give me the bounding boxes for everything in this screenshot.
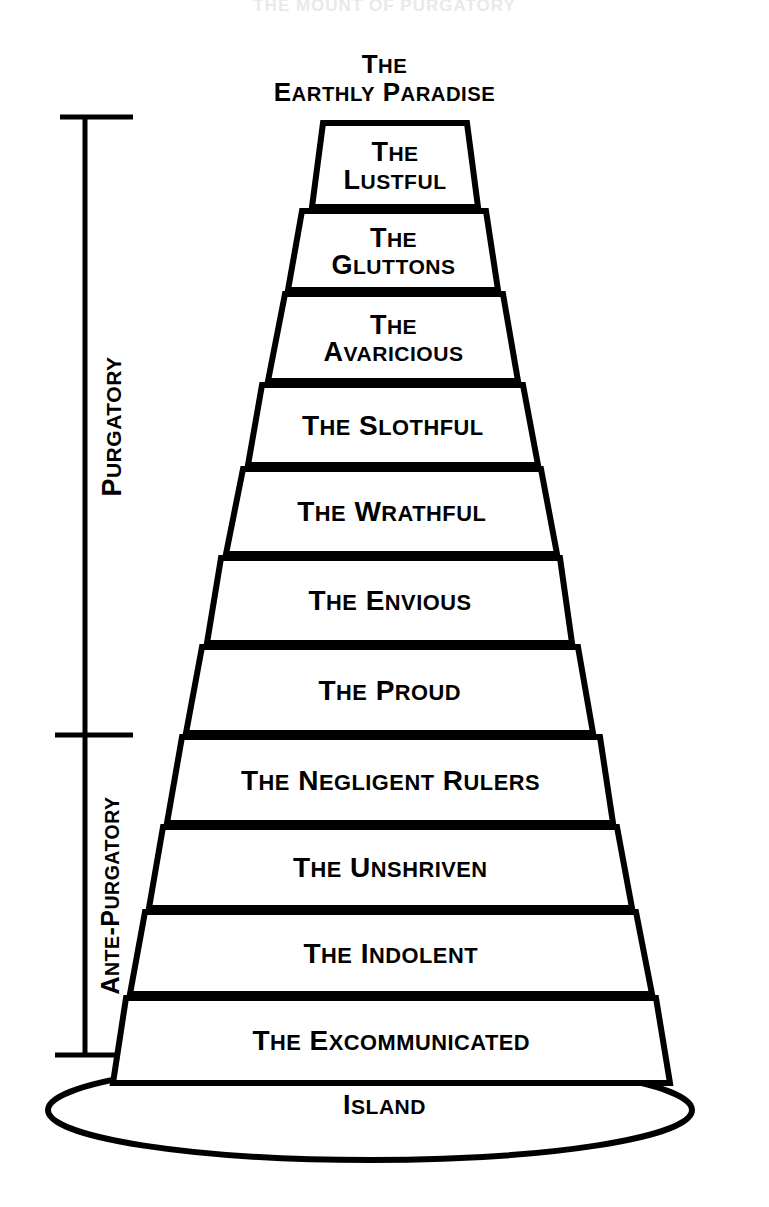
apex-label-earthly-paradise: THE EARTHLY PARADISE	[0, 50, 769, 106]
island-label: ISLAND	[0, 1090, 769, 1121]
tier-shape	[226, 469, 557, 554]
tier-shape	[268, 294, 518, 381]
apex-line-2: EARTHLY PARADISE	[274, 77, 495, 107]
island-label-text: ISLAND	[343, 1090, 426, 1120]
tier-shape	[167, 737, 613, 823]
tier-shape	[149, 827, 632, 908]
tier-shape	[113, 998, 670, 1083]
apex-line-1: THE	[362, 49, 408, 79]
tier-shape	[288, 211, 498, 290]
tier-shape	[207, 558, 572, 643]
tier-shape	[312, 123, 478, 207]
tier-shapes-group	[113, 123, 670, 1083]
diagram-canvas: THE MOUNT OF PURGATORY THE EARTHLY PARAD…	[0, 0, 769, 1207]
bracket-label-ante-purgatory: ANTE-PURGATORY	[96, 796, 125, 994]
bracket-label-purgatory: PURGATORY	[97, 356, 128, 496]
mount-of-purgatory-svg	[0, 0, 769, 1207]
tier-shape	[130, 912, 652, 994]
tier-shape	[186, 647, 593, 733]
tier-shape	[248, 385, 538, 465]
